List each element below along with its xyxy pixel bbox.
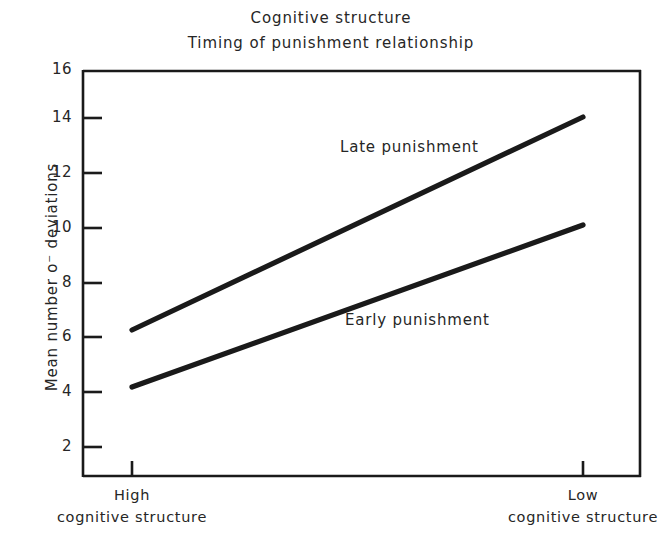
y-tick-marks: [83, 118, 102, 447]
series-line-late-punishment: [132, 117, 583, 330]
plot-area: [0, 0, 662, 544]
chart-figure: Cognitive structure Timing of punishment…: [0, 0, 662, 544]
series-line-early-punishment: [132, 225, 583, 387]
data-series-group: [132, 117, 583, 387]
x-tick-marks: [132, 461, 583, 476]
